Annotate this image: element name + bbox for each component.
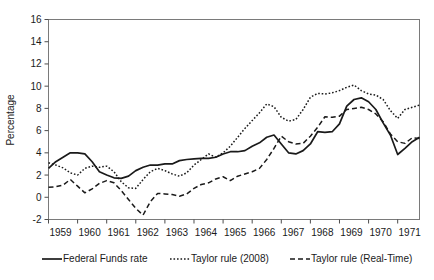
y-tick-label: 4 (36, 147, 42, 158)
y-tick-label: 2 (36, 170, 42, 181)
y-tick-label: 16 (30, 14, 42, 25)
series-line-1 (49, 85, 420, 188)
y-axis-ticks (45, 20, 49, 220)
legend-label-1: Taylor rule (2008) (191, 253, 269, 264)
y-tick-label: 8 (36, 103, 42, 114)
series-line-2 (49, 107, 420, 215)
chart-legend: Federal Funds rateTaylor rule (2008)Tayl… (42, 253, 412, 264)
chart-svg: -20246810121416 195919601961196219631964… (0, 0, 434, 280)
x-tick-label: 1960 (78, 227, 101, 238)
plot-area-border (49, 20, 420, 220)
x-tick-label: 1969 (340, 227, 363, 238)
x-tick-label: 1966 (253, 227, 276, 238)
y-tick-label: 6 (36, 125, 42, 136)
y-tick-label: 0 (36, 192, 42, 203)
x-axis-tick-labels: 1959196019611962196319641965196619671968… (49, 227, 421, 238)
x-tick-label: 1961 (108, 227, 131, 238)
x-tick-label: 1963 (166, 227, 189, 238)
x-tick-label: 1968 (311, 227, 334, 238)
legend-label-2: Taylor rule (Real-Time) (311, 253, 412, 264)
y-tick-label: 12 (30, 58, 42, 69)
y-tick-label: -2 (33, 214, 42, 225)
chart-figure: -20246810121416 195919601961196219631964… (0, 0, 434, 280)
x-tick-label: 1971 (399, 227, 422, 238)
x-tick-label: 1967 (282, 227, 305, 238)
y-axis-tick-labels: -20246810121416 (30, 14, 42, 225)
plot-frame-group (49, 20, 420, 220)
legend-label-0: Federal Funds rate (63, 253, 148, 264)
x-tick-label: 1965 (224, 227, 247, 238)
y-tick-label: 10 (30, 81, 42, 92)
x-tick-label: 1964 (195, 227, 218, 238)
data-series-group (49, 85, 420, 215)
x-tick-label: 1959 (49, 227, 72, 238)
x-axis-ticks (49, 220, 398, 224)
y-tick-label: 14 (30, 36, 42, 47)
y-axis-title: Percentage (5, 94, 16, 146)
series-line-0 (49, 98, 420, 179)
x-tick-label: 1962 (137, 227, 160, 238)
x-tick-label: 1970 (369, 227, 392, 238)
